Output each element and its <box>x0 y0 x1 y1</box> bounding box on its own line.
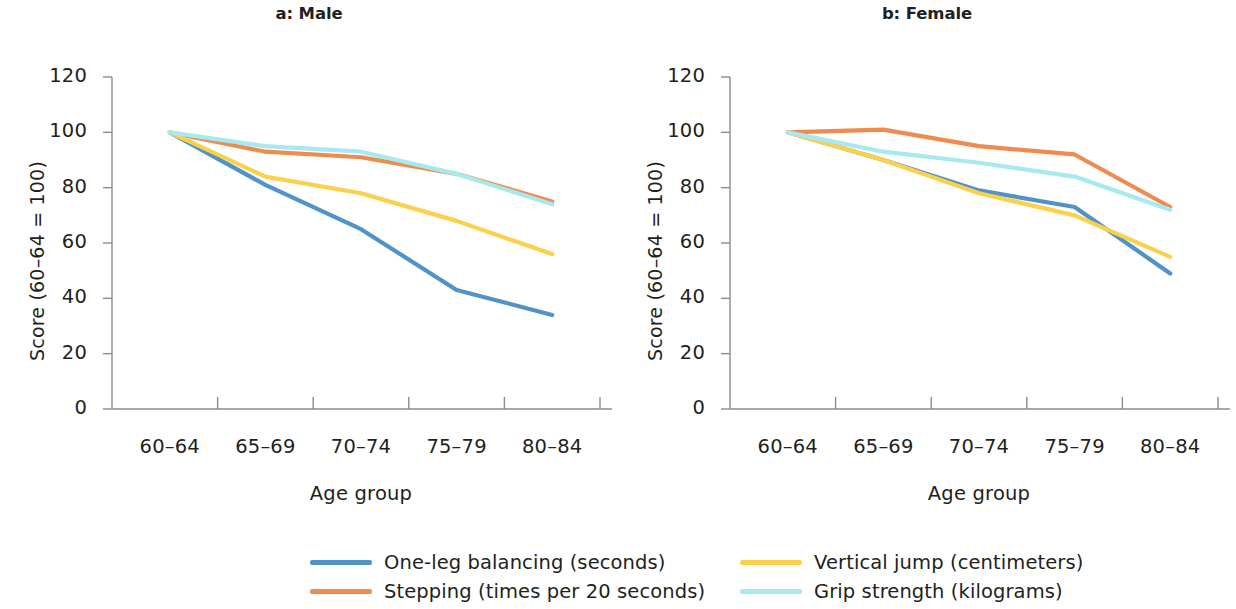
legend-swatch-icon <box>310 560 372 565</box>
legend-column-left: One-leg balancing (seconds) Stepping (ti… <box>310 548 750 606</box>
chart-panels: a: Male 02040608010012060–6465–6970–7475… <box>0 0 1236 520</box>
x-axis-tick-label: 60–64 <box>115 435 225 458</box>
legend-item-vertical-jump[interactable]: Vertical jump (centimeters) <box>740 548 1180 577</box>
chart-panel-male: a: Male 02040608010012060–6465–6970–7475… <box>0 0 618 520</box>
series-line <box>788 132 1170 257</box>
legend-item-grip-strength[interactable]: Grip strength (kilograms) <box>740 577 1180 606</box>
x-axis-tick-label: 70–74 <box>924 435 1034 458</box>
figure-panel-group: a: Male 02040608010012060–6465–6970–7475… <box>0 0 1236 609</box>
series-line <box>788 132 1170 209</box>
legend-column-right: Vertical jump (centimeters) Grip strengt… <box>740 548 1180 606</box>
legend-label: Stepping (times per 20 seconds) <box>384 580 705 603</box>
plot-area-male: 02040608010012060–6465–6970–7475–7980–84… <box>0 0 618 520</box>
x-axis-title: Age group <box>779 482 1179 505</box>
legend-swatch-icon <box>740 560 802 565</box>
series-line <box>788 130 1170 207</box>
series-line <box>788 132 1170 273</box>
plot-area-female: 02040608010012060–6465–6970–7475–7980–84… <box>618 0 1236 520</box>
x-axis-tick-label: 65–69 <box>210 435 320 458</box>
legend-label: One-leg balancing (seconds) <box>384 551 665 574</box>
x-axis-title: Age group <box>161 482 561 505</box>
legend-item-stepping[interactable]: Stepping (times per 20 seconds) <box>310 577 750 606</box>
x-axis-tick-label: 70–74 <box>306 435 416 458</box>
x-axis-tick-label: 75–79 <box>402 435 512 458</box>
y-axis-title: Score (60–64 = 100) <box>26 161 48 361</box>
legend-label: Vertical jump (centimeters) <box>814 551 1083 574</box>
chart-legend: One-leg balancing (seconds) Stepping (ti… <box>310 548 1230 608</box>
legend-label: Grip strength (kilograms) <box>814 580 1063 603</box>
y-axis-title: Score (60–64 = 100) <box>644 161 666 361</box>
x-axis-tick-label: 65–69 <box>828 435 938 458</box>
x-axis-tick-label: 60–64 <box>733 435 843 458</box>
legend-swatch-icon <box>310 589 372 594</box>
chart-panel-female: b: Female 02040608010012060–6465–6970–74… <box>618 0 1236 520</box>
x-axis-tick-label: 80–84 <box>1115 435 1225 458</box>
x-axis-tick-label: 75–79 <box>1020 435 1130 458</box>
legend-swatch-icon <box>740 589 802 594</box>
legend-item-one-leg-balancing[interactable]: One-leg balancing (seconds) <box>310 548 750 577</box>
x-axis-tick-label: 80–84 <box>497 435 607 458</box>
